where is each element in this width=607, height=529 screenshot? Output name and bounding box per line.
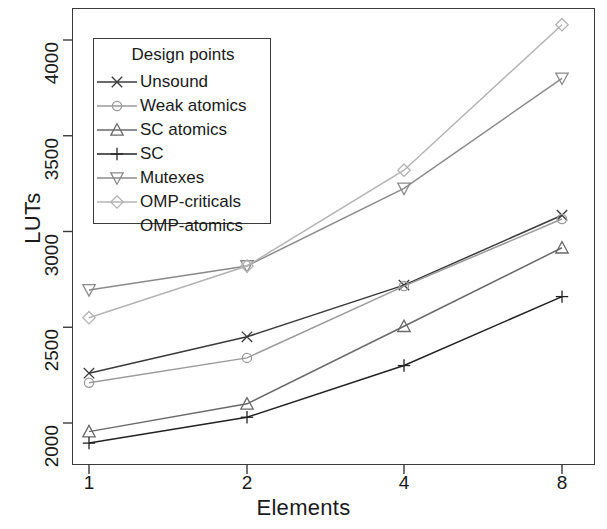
x-axis-label: Elements [0, 495, 607, 521]
legend-item-unsound: Unsound [94, 71, 272, 93]
legend-title: Design points [94, 45, 272, 65]
chart-figure: 2000 2500 3000 3500 4000 LUTs 1 2 4 8 El… [0, 0, 607, 529]
legend-item-label: SC [140, 143, 164, 165]
legend-item-omp-atomics: OMP-atomics [94, 215, 272, 237]
x-tick-label: 1 [69, 472, 109, 494]
y-tick-label: 2500 [41, 329, 63, 389]
legend: Design points Unsound Weak atomics SC at… [93, 38, 271, 224]
x-tick-label: 8 [542, 472, 582, 494]
legend-marker-diamond-icon [94, 191, 140, 213]
legend-item-weak-atomics: Weak atomics [94, 95, 272, 117]
legend-item-label: OMP-atomics [140, 215, 243, 237]
legend-item-label: Unsound [140, 71, 208, 93]
legend-marker-triangle-up-icon [94, 119, 140, 141]
legend-item-label: Mutexes [140, 167, 204, 189]
legend-marker-none-icon [94, 215, 140, 237]
legend-marker-plus-icon [94, 143, 140, 165]
y-tick-label: 2000 [41, 425, 63, 485]
legend-marker-circle-icon [94, 95, 140, 117]
legend-marker-triangle-down-icon [94, 167, 140, 189]
legend-item-sc: SC [94, 143, 272, 165]
legend-item-omp-criticals: OMP-criticals [94, 191, 272, 213]
x-tick-label: 2 [227, 472, 267, 494]
legend-item-label: Weak atomics [140, 95, 246, 117]
legend-item-mutexes: Mutexes [94, 167, 272, 189]
legend-item-label: SC atomics [140, 119, 227, 141]
y-tick-label: 4000 [41, 42, 63, 102]
legend-item-sc-atomics: SC atomics [94, 119, 272, 141]
y-axis-label: LUTs [20, 163, 46, 273]
legend-item-label: OMP-criticals [140, 191, 241, 213]
x-tick-label: 4 [384, 472, 424, 494]
legend-marker-x-icon [94, 71, 140, 93]
